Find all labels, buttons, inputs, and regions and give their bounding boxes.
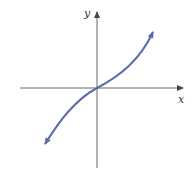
x-axis-label: x: [178, 93, 185, 106]
graph-figure: y x: [0, 0, 194, 169]
y-axis-label: y: [83, 7, 91, 20]
